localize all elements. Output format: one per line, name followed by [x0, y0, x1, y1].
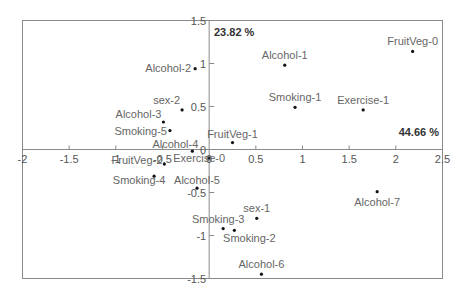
x-tick-label: 2 [393, 153, 399, 165]
data-point: Smoking-5 [114, 125, 171, 137]
point-label: Alcohol-6 [239, 258, 285, 270]
y-tick-label: 1.5 [191, 15, 206, 27]
point-label: FruitVeg-0 [387, 35, 438, 47]
point-marker [231, 141, 234, 144]
point-label: Alcohol-1 [262, 49, 308, 61]
point-label: Alcohol-5 [174, 174, 220, 186]
x-tick-label: 0.5 [248, 153, 263, 165]
point-label: FruitVeg-1 [207, 128, 258, 140]
point-label: FruitVeg-2 [112, 154, 163, 166]
data-point: Alcohol-5 [174, 174, 220, 190]
point-marker [222, 227, 225, 230]
point-label: Smoking-3 [192, 213, 245, 225]
y-tick-label: -1 [196, 230, 206, 242]
x-tick-label: 2.5 [435, 153, 450, 165]
point-marker [181, 108, 184, 111]
point-marker [411, 50, 414, 53]
point-label: Exercise-0 [173, 152, 225, 164]
point-marker [194, 67, 197, 70]
point-label: Alcohol-4 [152, 138, 198, 150]
point-marker [362, 108, 365, 111]
x-tick-label: -2 [18, 153, 28, 165]
data-points: Alcohol-2sex-2Alcohol-3Smoking-5Alcohol-… [112, 35, 438, 275]
point-marker [168, 129, 171, 132]
data-point: Alcohol-1 [262, 49, 308, 67]
x-tick-label: 1 [299, 153, 305, 165]
y-tick-label: 0.5 [191, 101, 206, 113]
point-label: Smoking-1 [269, 91, 322, 103]
data-point: Smoking-4 [113, 174, 166, 186]
data-point: Smoking-3 [192, 213, 245, 231]
vertical-axis-inertia-label: 23.82 % [214, 26, 255, 38]
point-marker [255, 217, 258, 220]
x-axis-ticks: -2-1.5-1-0.500.511.522.5 [18, 146, 451, 165]
data-point: Alcohol-2 [145, 62, 196, 74]
point-label: Smoking-5 [114, 125, 167, 137]
point-label: sex-1 [243, 202, 270, 214]
point-marker [162, 120, 165, 123]
horizontal-axis-inertia-label: 44.66 % [399, 126, 440, 138]
data-point: Alcohol-3 [116, 108, 165, 124]
data-point: sex-1 [243, 202, 270, 220]
correspondence-analysis-plot: -2-1.5-1-0.500.511.522.5 1.510.50-0.5-1-… [0, 0, 467, 295]
point-marker [260, 273, 263, 276]
point-label: Smoking-2 [223, 232, 276, 244]
point-marker [376, 190, 379, 193]
y-tick-label: -1.5 [187, 273, 206, 285]
point-marker [293, 106, 296, 109]
y-tick-label: 1 [200, 58, 206, 70]
data-point: FruitVeg-2 [112, 154, 166, 166]
data-point: Alcohol-7 [354, 190, 400, 208]
data-point: Exercise-0 [173, 152, 225, 164]
point-label: Alcohol-7 [354, 196, 400, 208]
point-marker [195, 187, 198, 190]
point-label: Alcohol-3 [116, 108, 162, 120]
data-point: Alcohol-6 [239, 258, 285, 276]
point-label: Alcohol-2 [145, 62, 191, 74]
x-tick-label: -1.5 [60, 153, 79, 165]
point-marker [163, 163, 166, 166]
x-tick-label: 1.5 [342, 153, 357, 165]
data-point: Exercise-1 [337, 94, 389, 112]
point-label: sex-2 [153, 94, 180, 106]
point-marker [283, 64, 286, 67]
point-label: Exercise-1 [337, 94, 389, 106]
point-label: Smoking-4 [113, 174, 166, 186]
data-point: Alcohol-4 [152, 138, 198, 153]
data-point: FruitVeg-1 [207, 128, 258, 145]
data-point: FruitVeg-0 [387, 35, 438, 53]
data-point: Smoking-1 [269, 91, 322, 109]
data-point: Smoking-2 [223, 229, 276, 245]
